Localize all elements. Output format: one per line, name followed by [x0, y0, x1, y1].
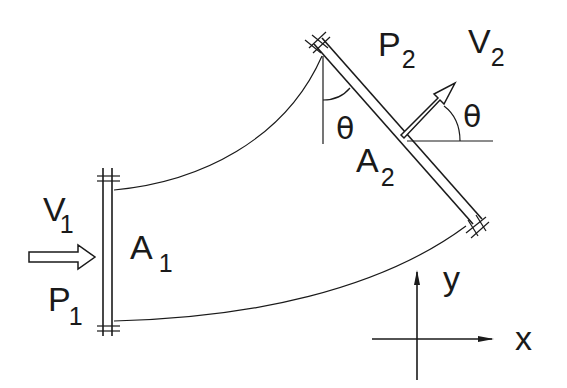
inlet-flange [97, 168, 120, 336]
inlet-area-label: A1 [130, 228, 173, 277]
outlet-velocity-arrow [401, 83, 455, 138]
flange-angle-theta: θ [336, 111, 354, 146]
velocity-angle-theta: θ [463, 99, 481, 134]
pipe-upper-wall [114, 56, 322, 190]
outlet-velocity-label: V2 [468, 22, 505, 71]
y-axis-label: y [443, 259, 460, 297]
inlet-velocity-arrow [29, 245, 95, 269]
pipe-bend-diagram: V1 P1 A1 P2 V2 A2 θ θ y x [0, 0, 567, 388]
outlet-pressure-label: P2 [378, 25, 416, 73]
coordinate-axes [372, 270, 494, 380]
outlet-area-label: A2 [356, 141, 395, 191]
x-axis-label: x [515, 319, 532, 357]
inlet-velocity-label: V1 [43, 190, 74, 238]
inlet-pressure-label: P1 [48, 280, 83, 330]
